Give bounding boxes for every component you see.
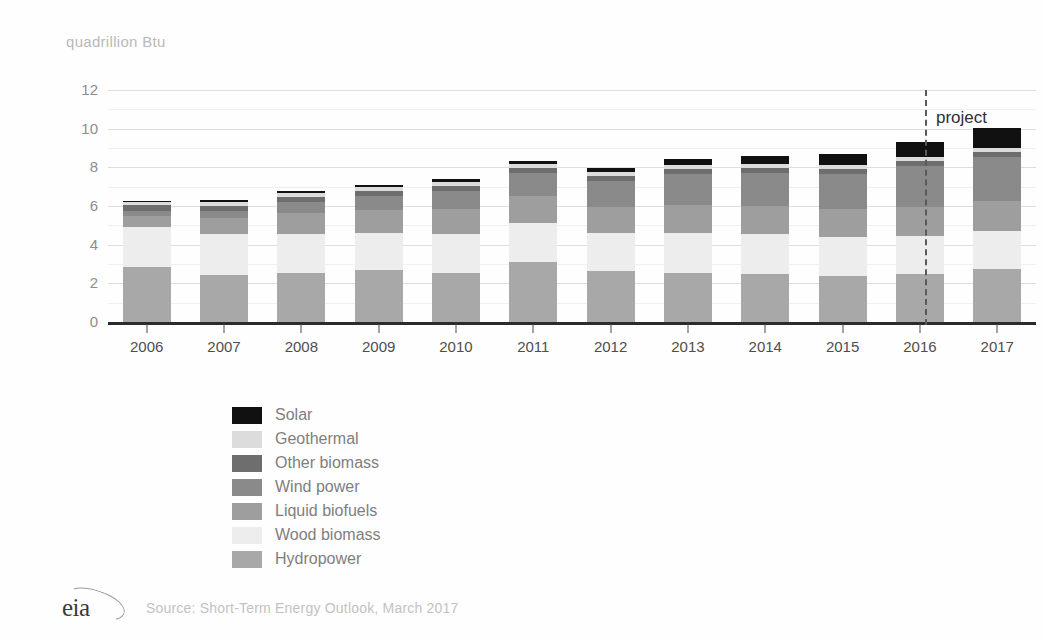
bar-segment-solar-2015[interactable] — [819, 154, 867, 165]
x-tick-label-2014: 2014 — [749, 338, 782, 355]
bar-segment-liquid-biofuels-2010[interactable] — [432, 209, 480, 235]
x-tick-label-2010: 2010 — [439, 338, 472, 355]
stacked-bar-2010[interactable] — [432, 179, 480, 322]
bar-segment-hydropower-2011[interactable] — [509, 262, 557, 322]
x-tick-mark-2008 — [301, 324, 302, 333]
bar-segment-wood-biomass-2016[interactable] — [896, 236, 944, 274]
bar-segment-wind-power-2012[interactable] — [587, 181, 635, 207]
bar-segment-wood-biomass-2015[interactable] — [819, 237, 867, 276]
bar-slot-2015 — [804, 90, 881, 322]
stacked-bar-2015[interactable] — [819, 154, 867, 322]
stacked-bar-2009[interactable] — [355, 185, 403, 322]
legend-item-other-biomass[interactable]: Other biomass — [232, 452, 381, 474]
bar-slot-2009 — [340, 90, 417, 322]
legend-swatch-icon — [232, 551, 262, 568]
x-tick-mark-2009 — [378, 324, 379, 333]
bar-slot-2012 — [572, 90, 649, 322]
legend-item-liquid-biofuels[interactable]: Liquid biofuels — [232, 500, 381, 522]
bar-segment-hydropower-2009[interactable] — [355, 270, 403, 322]
bar-segment-wind-power-2011[interactable] — [509, 173, 557, 196]
bar-segment-solar-2016[interactable] — [896, 142, 944, 157]
bar-segment-wood-biomass-2011[interactable] — [509, 223, 557, 262]
bar-segment-hydropower-2013[interactable] — [664, 273, 712, 322]
stacked-bar-2013[interactable] — [664, 159, 712, 322]
bar-segment-wind-power-2010[interactable] — [432, 191, 480, 209]
bar-segment-wood-biomass-2009[interactable] — [355, 233, 403, 271]
bar-segment-wind-power-2016[interactable] — [896, 166, 944, 207]
x-tick-mark-2013 — [687, 324, 688, 333]
bar-segment-wind-power-2015[interactable] — [819, 174, 867, 208]
stacked-bar-2011[interactable] — [509, 161, 557, 322]
bar-segment-solar-2014[interactable] — [741, 156, 789, 164]
x-tick-slot-2008: 2008 — [263, 322, 340, 368]
bar-segment-wind-power-2017[interactable] — [973, 157, 1021, 201]
legend-item-label: Hydropower — [275, 550, 361, 568]
legend-item-label: Geothermal — [275, 430, 359, 448]
stacked-bar-2007[interactable] — [200, 200, 248, 322]
bar-segment-liquid-biofuels-2015[interactable] — [819, 209, 867, 237]
bar-segment-hydropower-2015[interactable] — [819, 276, 867, 322]
x-axis: 2006200720082009201020112012201320142015… — [108, 322, 1036, 368]
bar-segment-wood-biomass-2012[interactable] — [587, 233, 635, 271]
bar-slot-2006 — [108, 90, 185, 322]
y-tick-label-0: 0 — [58, 313, 98, 330]
y-axis-tick-labels: 024681012 — [58, 90, 98, 322]
bar-segment-liquid-biofuels-2013[interactable] — [664, 205, 712, 232]
x-tick-label-2013: 2013 — [671, 338, 704, 355]
bar-segment-wind-power-2013[interactable] — [664, 174, 712, 205]
legend-item-solar[interactable]: Solar — [232, 404, 381, 426]
projection-label: project — [936, 108, 987, 128]
x-tick-slot-2010: 2010 — [417, 322, 494, 368]
bar-segment-liquid-biofuels-2012[interactable] — [587, 207, 635, 233]
chart-page: quadrillion Btu 024681012 project 200620… — [0, 0, 1043, 640]
bar-segment-wind-power-2014[interactable] — [741, 173, 789, 206]
x-tick-slot-2012: 2012 — [572, 322, 649, 368]
bar-segment-liquid-biofuels-2009[interactable] — [355, 210, 403, 233]
bar-segment-wood-biomass-2008[interactable] — [277, 234, 325, 273]
plot-area — [108, 90, 1036, 322]
bar-segment-hydropower-2010[interactable] — [432, 273, 480, 322]
bar-segment-hydropower-2016[interactable] — [896, 274, 944, 322]
bar-segment-wood-biomass-2010[interactable] — [432, 234, 480, 273]
stacked-bar-2016[interactable] — [896, 142, 944, 322]
projection-divider-line — [925, 90, 927, 325]
y-tick-label-8: 8 — [58, 158, 98, 175]
bar-segment-hydropower-2006[interactable] — [123, 267, 171, 322]
bar-segment-wood-biomass-2007[interactable] — [200, 234, 248, 274]
bar-segment-hydropower-2012[interactable] — [587, 271, 635, 322]
stacked-bar-2014[interactable] — [741, 156, 789, 322]
bar-segment-wood-biomass-2014[interactable] — [741, 234, 789, 274]
bar-segment-solar-2017[interactable] — [973, 128, 1021, 148]
bar-segment-liquid-biofuels-2006[interactable] — [123, 216, 171, 227]
bar-segment-hydropower-2014[interactable] — [741, 274, 789, 322]
x-tick-mark-2016 — [919, 324, 920, 333]
stacked-bar-2008[interactable] — [277, 191, 325, 322]
bar-slot-2014 — [727, 90, 804, 322]
bar-segment-wood-biomass-2013[interactable] — [664, 233, 712, 273]
bar-segment-liquid-biofuels-2017[interactable] — [973, 201, 1021, 231]
stacked-bar-2012[interactable] — [587, 168, 635, 322]
x-tick-slot-2007: 2007 — [185, 322, 262, 368]
x-tick-slot-2013: 2013 — [649, 322, 726, 368]
bar-segment-liquid-biofuels-2008[interactable] — [277, 213, 325, 234]
x-tick-slot-2006: 2006 — [108, 322, 185, 368]
stacked-bar-2017[interactable] — [973, 128, 1021, 322]
legend-item-wood-biomass[interactable]: Wood biomass — [232, 524, 381, 546]
bar-segment-liquid-biofuels-2011[interactable] — [509, 196, 557, 223]
bar-segment-liquid-biofuels-2007[interactable] — [200, 218, 248, 235]
bar-segment-wind-power-2008[interactable] — [277, 202, 325, 213]
bar-segment-wood-biomass-2006[interactable] — [123, 227, 171, 266]
bar-segment-wind-power-2009[interactable] — [355, 196, 403, 210]
bar-segment-hydropower-2007[interactable] — [200, 275, 248, 322]
bar-segment-liquid-biofuels-2016[interactable] — [896, 207, 944, 236]
bar-segment-hydropower-2017[interactable] — [973, 269, 1021, 322]
legend-item-geothermal[interactable]: Geothermal — [232, 428, 381, 450]
bar-series-group — [108, 90, 1036, 322]
bar-segment-hydropower-2008[interactable] — [277, 273, 325, 322]
stacked-bar-2006[interactable] — [123, 201, 171, 322]
bar-segment-wood-biomass-2017[interactable] — [973, 231, 1021, 269]
legend-item-hydropower[interactable]: Hydropower — [232, 548, 381, 570]
legend-item-wind-power[interactable]: Wind power — [232, 476, 381, 498]
bar-segment-liquid-biofuels-2014[interactable] — [741, 206, 789, 234]
legend-swatch-icon — [232, 455, 262, 472]
